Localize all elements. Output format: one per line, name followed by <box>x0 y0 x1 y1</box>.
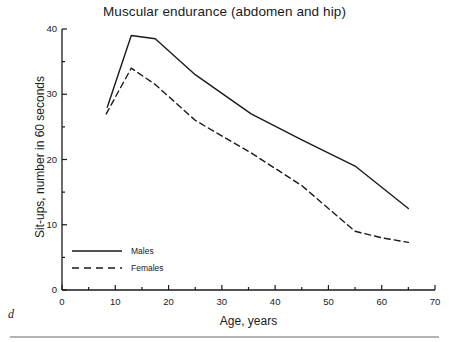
x-axis-title: Age, years <box>62 314 435 328</box>
figure-panel: Muscular endurance (abdomen and hip) 010… <box>0 0 449 342</box>
bottom-rule <box>10 336 439 338</box>
chart-plot-area <box>0 0 449 342</box>
x-tick-label-20: 20 <box>159 296 179 307</box>
legend-label-males: Males <box>131 246 154 256</box>
x-tick-label-30: 30 <box>212 296 232 307</box>
series-line-males <box>107 36 408 209</box>
x-tick-label-60: 60 <box>372 296 392 307</box>
x-tick-label-40: 40 <box>265 296 285 307</box>
series-line-females <box>106 68 408 242</box>
y-axis-title: Sit-ups, number in 60 seconds <box>33 32 47 282</box>
legend-lines <box>72 251 122 268</box>
y-tick-label-0: 0 <box>37 284 57 295</box>
legend-label-females: Females <box>131 263 164 273</box>
data-series <box>106 36 408 243</box>
x-tick-label-70: 70 <box>425 296 445 307</box>
x-tick-label-0: 0 <box>52 296 72 307</box>
panel-letter: d <box>8 307 14 322</box>
x-tick-label-10: 10 <box>105 296 125 307</box>
x-tick-label-50: 50 <box>318 296 338 307</box>
